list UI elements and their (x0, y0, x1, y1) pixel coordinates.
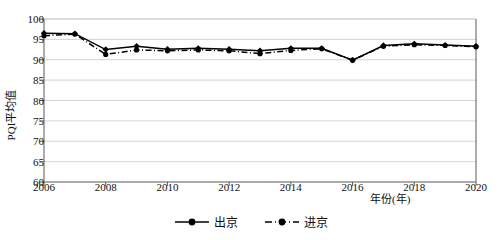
x-tick-label: 2006 (33, 182, 55, 193)
data-point-marker (412, 42, 417, 47)
y-tick-label: 75 (16, 116, 44, 126)
plot-area (0, 0, 502, 240)
y-tick-label: 85 (16, 75, 44, 85)
legend-item-jinjing[interactable]: 进京 (264, 213, 328, 231)
y-tick-label: 90 (16, 55, 44, 65)
y-tick-label: 95 (16, 34, 44, 44)
x-tick-label: 2020 (465, 182, 487, 193)
data-point-marker (473, 44, 478, 49)
data-point-marker (319, 46, 324, 51)
x-tick-label: 2016 (342, 182, 364, 193)
data-point-marker (103, 52, 108, 57)
y-tick-label: 65 (16, 157, 44, 167)
series-line-jinjing (44, 34, 476, 60)
legend-label-jinjing: 进京 (304, 213, 328, 231)
x-tick-label: 2014 (280, 182, 302, 193)
legend-item-chujing[interactable]: 出京 (174, 213, 238, 231)
data-point-marker (72, 31, 77, 36)
data-point-marker (103, 46, 109, 52)
pqi-line-chart: PQI平均值 6065707580859095100 2006200820102… (0, 0, 502, 240)
x-tick-label: 2008 (95, 182, 117, 193)
x-tick-label: 2012 (218, 182, 240, 193)
y-tick-label: 70 (16, 136, 44, 146)
data-point-marker (443, 43, 448, 48)
data-point-marker (381, 44, 386, 49)
y-tick-label: 80 (16, 96, 44, 106)
data-point-marker (165, 48, 170, 53)
data-point-marker (196, 47, 201, 52)
data-point-marker (227, 48, 232, 53)
legend-label-chujing: 出京 (214, 213, 238, 231)
data-point-marker (288, 48, 293, 53)
data-point-marker (350, 58, 355, 63)
data-point-marker (134, 47, 139, 52)
cropped-header-artifact (8, 0, 48, 6)
data-point-marker (257, 51, 262, 56)
y-axis-tick-labels: 6065707580859095100 (0, 0, 44, 240)
chart-legend: 出京 进京 (0, 213, 502, 231)
x-tick-label: 2010 (156, 182, 178, 193)
x-axis-title: 年份(年) (370, 190, 410, 206)
legend-swatch-solid (174, 216, 210, 228)
legend-swatch-dashdot (264, 216, 300, 228)
y-tick-label: 100 (16, 14, 44, 24)
